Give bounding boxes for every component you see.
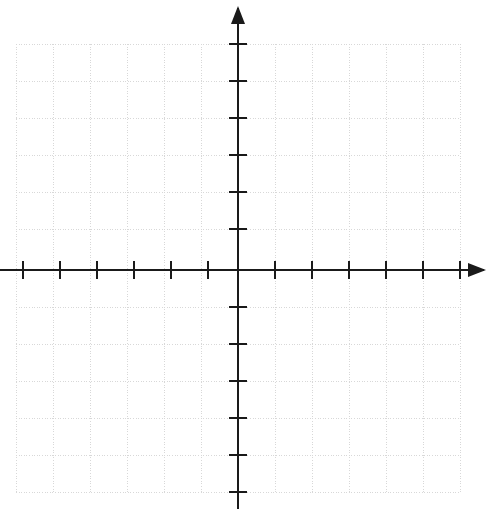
x-axis-arrowhead-right: [468, 263, 486, 277]
coordinate-grid-figure: [0, 0, 492, 509]
coordinate-plane-svg: [0, 0, 492, 509]
axis-lines-group: [0, 8, 484, 509]
axis-arrowheads-group: [231, 6, 486, 277]
y-axis-arrowhead-up: [231, 6, 245, 24]
